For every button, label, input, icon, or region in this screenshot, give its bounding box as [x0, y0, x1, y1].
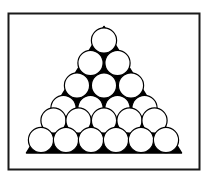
- circle-r3-c3: [118, 73, 143, 98]
- circle-r3-c1: [64, 73, 89, 98]
- circle-row-3: [64, 73, 143, 98]
- circle-r6-c3: [78, 127, 103, 152]
- circle-r6-c6: [153, 127, 178, 152]
- circle-r2-c2: [105, 50, 130, 75]
- circle-r2-c1: [78, 50, 103, 75]
- circle-r3-c2: [91, 73, 116, 98]
- circle-r1-c1: [91, 28, 116, 53]
- figure-root: [0, 0, 214, 181]
- figure-frame: [0, 0, 214, 181]
- circle-r6-c2: [53, 127, 78, 152]
- circle-r6-c4: [103, 127, 128, 152]
- triangular-circle-packing-figure: [0, 0, 214, 181]
- circle-r6-c5: [128, 127, 153, 152]
- circle-row-1: [91, 28, 116, 53]
- circle-r6-c1: [28, 127, 53, 152]
